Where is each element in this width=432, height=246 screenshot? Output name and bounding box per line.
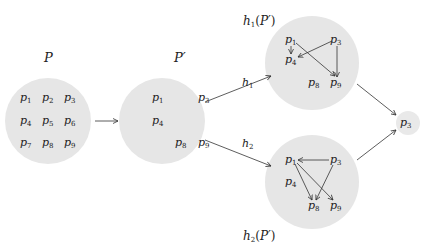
set-h1-circle [265, 16, 359, 110]
set-p-label: P [43, 50, 53, 65]
arrow-h2 [205, 140, 271, 166]
svg-text:p9: p9 [198, 136, 210, 150]
arrow-h1-label: h1 [242, 76, 254, 90]
svg-text:p3: p3 [198, 91, 210, 105]
set-h2-label: h2(P′) [243, 229, 275, 244]
arrow-h1 [205, 76, 271, 102]
diagram-canvas: P P′ h1(P′) h2(P′) p1 p2 p3 p4 p5 p6 p7 … [0, 0, 432, 246]
set-p-elements: p1 p2 p3 p4 p5 p6 p7 p8 p9 [20, 91, 76, 150]
arrow-h2-label: h2 [242, 137, 254, 151]
arrow-h2-to-result [357, 130, 396, 160]
set-h2-circle [265, 135, 359, 229]
arrow-h1-to-result [357, 84, 396, 115]
set-h1-label: h1(P′) [243, 14, 275, 29]
set-p-prime-label: P′ [173, 50, 186, 65]
